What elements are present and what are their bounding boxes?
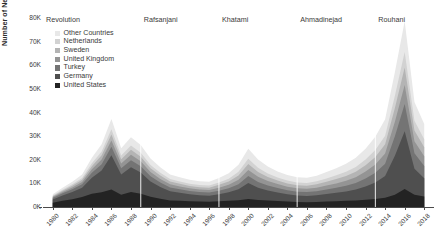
- y-axis-tick-label: 60K: [3, 61, 41, 68]
- chart-legend: Other CountriesNetherlandsSwedenUnited K…: [55, 29, 114, 90]
- legend-item: Other Countries: [55, 29, 114, 37]
- asylum-applicants-stacked-area-chart: Number of New Asylum Applicants 0K10K20K…: [0, 0, 437, 245]
- x-axis-tick-mark: [209, 207, 210, 210]
- legend-item: Germany: [55, 73, 114, 81]
- x-axis-tick-mark: [366, 207, 367, 210]
- era-label: Rouhani: [378, 15, 405, 24]
- legend-item: Turkey: [55, 64, 114, 72]
- era-label: Ahmadinejad: [300, 15, 342, 24]
- y-axis-tick-label: 30K: [3, 132, 41, 139]
- x-axis-tick-mark: [268, 207, 269, 210]
- x-axis-tick-mark: [405, 207, 406, 210]
- legend-item: United States: [55, 81, 114, 89]
- legend-item-label: Sweden: [64, 47, 90, 54]
- x-axis-tick-mark: [307, 207, 308, 210]
- legend-swatch-icon: [55, 65, 60, 70]
- x-axis-tick-mark: [287, 207, 288, 210]
- x-axis-tick-label: 1988: [115, 212, 138, 235]
- legend-swatch-icon: [55, 48, 60, 53]
- legend-swatch-icon: [55, 39, 60, 44]
- legend-item-label: Turkey: [64, 64, 85, 71]
- legend-swatch-icon: [55, 74, 60, 79]
- x-axis-tick-mark: [92, 207, 93, 210]
- x-axis-tick-label: 1986: [95, 212, 118, 235]
- y-axis-tick-label: 50K: [3, 85, 41, 92]
- y-axis-tick-label: 20K: [3, 156, 41, 163]
- x-axis-tick-mark: [424, 207, 425, 210]
- era-label: Rafsanjani: [144, 15, 178, 24]
- era-label: Revolution: [46, 15, 80, 24]
- x-axis-tick-mark: [385, 207, 386, 210]
- x-axis-tick-mark: [111, 207, 112, 210]
- x-axis-tick-label: 2012: [349, 212, 372, 235]
- x-axis-tick-mark: [72, 207, 73, 210]
- legend-swatch-icon: [55, 57, 60, 62]
- legend-item-label: United Kingdom: [64, 56, 114, 63]
- x-axis-tick-mark: [346, 207, 347, 210]
- x-axis-tick-label: 1990: [134, 212, 157, 235]
- x-axis-tick-mark: [53, 207, 54, 210]
- legend-swatch-icon: [55, 83, 60, 88]
- x-axis-tick-mark: [151, 207, 152, 210]
- x-axis-tick-mark: [131, 207, 132, 210]
- y-axis-tick-label: 10K: [3, 179, 41, 186]
- legend-item-label: Other Countries: [64, 30, 114, 37]
- legend-swatch-icon: [55, 31, 60, 36]
- x-axis-tick-label: 2008: [310, 212, 333, 235]
- legend-item-label: Netherlands: [64, 38, 102, 45]
- legend-item: Netherlands: [55, 38, 114, 46]
- era-label: Khatami: [222, 15, 248, 24]
- x-axis-ticks: 1980198219841986198819901992199419961998…: [0, 207, 437, 245]
- x-axis-tick-mark: [229, 207, 230, 210]
- x-axis-tick-mark: [170, 207, 171, 210]
- x-axis-tick-mark: [248, 207, 249, 210]
- legend-item-label: United States: [64, 82, 107, 89]
- y-axis-tick-label: 70K: [3, 38, 41, 45]
- legend-item-label: Germany: [64, 73, 93, 80]
- x-axis-tick-label: 2010: [330, 212, 353, 235]
- x-axis-tick-mark: [326, 207, 327, 210]
- legend-item: Sweden: [55, 46, 114, 54]
- legend-item: United Kingdom: [55, 55, 114, 63]
- y-axis-tick-label: 80K: [3, 14, 41, 21]
- x-axis-tick-mark: [190, 207, 191, 210]
- y-axis-tick-label: 40K: [3, 109, 41, 116]
